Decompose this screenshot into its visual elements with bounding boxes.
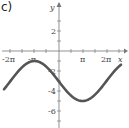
graph-figure: c) -2π -π π 2π x y 2 -2 -4 <box>0 0 129 128</box>
x-axis-label: x <box>118 55 123 64</box>
y-axis-arrow-icon <box>57 2 62 7</box>
y-tick-label: -4 <box>48 87 56 96</box>
function-curve <box>4 61 121 101</box>
x-axis-arrow-icon <box>124 49 128 54</box>
y-tick-label: 2 <box>51 27 56 36</box>
y-tick-label: -6 <box>48 107 56 116</box>
x-tick-label: -2π <box>2 55 15 64</box>
x-tick-label: 2π <box>101 55 111 64</box>
x-tick-label: π <box>80 55 85 64</box>
y-axis-label: y <box>49 3 55 12</box>
chart-svg: c) -2π -π π 2π x y 2 -2 -4 <box>0 0 129 128</box>
panel-label: c) <box>1 0 12 14</box>
